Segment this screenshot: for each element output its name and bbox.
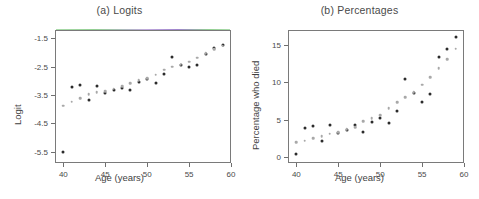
plot-area-percentages	[288, 30, 464, 163]
data-point-obs	[188, 66, 191, 69]
x-tick-label: 60	[460, 170, 469, 179]
data-point-fit	[412, 91, 415, 94]
data-point-fit	[354, 126, 357, 129]
data-point-obs	[421, 100, 424, 103]
x-tick-label: 50	[143, 170, 152, 179]
panel-title-logits: (a) Logits	[0, 4, 239, 16]
y-axis-title-percentage: Percentage who died	[250, 61, 261, 150]
y-tick-mark	[284, 157, 288, 158]
panel-percentages: (b) Percentages Percentage who died Age …	[240, 0, 479, 199]
x-tick-mark	[147, 163, 148, 167]
x-tick-label: 55	[418, 170, 427, 179]
panel-logits: (a) Logits Logit Age (years) -1.5-2.5-3.…	[0, 0, 239, 199]
data-point-obs	[379, 117, 382, 120]
data-point-fit	[320, 135, 323, 138]
data-point-fit	[312, 137, 315, 140]
data-point-obs	[370, 120, 373, 123]
data-point-fit	[121, 85, 124, 88]
data-point-fit	[329, 133, 332, 136]
data-point-fit	[112, 88, 115, 91]
data-point-obs	[446, 47, 449, 50]
data-point-fit	[96, 91, 99, 94]
data-point-fit	[396, 101, 399, 104]
data-point-obs	[70, 86, 73, 89]
data-point-obs	[454, 36, 457, 39]
data-point-fit	[104, 90, 107, 93]
data-point-fit	[446, 58, 449, 61]
y-tick-mark	[51, 67, 55, 68]
data-point-obs	[95, 85, 98, 88]
data-point-fit	[205, 52, 208, 55]
data-point-fit	[62, 105, 65, 108]
y-tick-label: -5.5	[15, 147, 48, 156]
y-tick-label: -2.5	[15, 62, 48, 71]
x-tick-mark	[105, 163, 106, 167]
y-tick-mark	[51, 123, 55, 124]
y-tick-mark	[284, 120, 288, 121]
x-axis-title-age: Age (years)	[240, 172, 479, 183]
x-tick-label: 50	[376, 170, 385, 179]
x-tick-mark	[231, 163, 232, 167]
data-point-fit	[70, 101, 73, 104]
data-point-obs	[295, 153, 298, 156]
y-tick-mark	[284, 45, 288, 46]
x-tick-mark	[380, 163, 381, 167]
y-tick-label: 0	[248, 153, 281, 162]
data-point-fit	[362, 120, 365, 123]
data-point-fit	[221, 45, 224, 48]
data-point-obs	[429, 92, 432, 95]
y-tick-label: -3.5	[15, 91, 48, 100]
data-point-fit	[129, 82, 132, 85]
y-tick-label: -4.5	[15, 119, 48, 128]
data-point-obs	[320, 139, 323, 142]
x-tick-mark	[63, 163, 64, 167]
data-point-obs	[437, 55, 440, 58]
data-point-fit	[138, 79, 141, 82]
data-point-obs	[404, 78, 407, 81]
y-tick-mark	[51, 152, 55, 153]
data-point-obs	[79, 83, 82, 86]
x-tick-label: 60	[227, 170, 236, 179]
data-point-fit	[387, 107, 390, 110]
data-point-obs	[328, 123, 331, 126]
data-point-fit	[404, 96, 407, 99]
x-tick-mark	[338, 163, 339, 167]
data-point-fit	[295, 141, 298, 144]
x-tick-label: 45	[334, 170, 343, 179]
data-point-fit	[196, 56, 199, 59]
data-point-obs	[171, 55, 174, 58]
data-point-fit	[171, 65, 174, 68]
data-point-fit	[163, 68, 166, 71]
x-tick-mark	[189, 163, 190, 167]
data-point-fit	[146, 77, 149, 80]
data-point-obs	[62, 151, 65, 154]
y-tick-mark	[51, 95, 55, 96]
data-point-obs	[395, 110, 398, 113]
y-tick-mark	[51, 38, 55, 39]
data-point-fit	[188, 60, 191, 63]
x-axis-title-age: Age (years)	[0, 172, 239, 183]
x-tick-label: 45	[101, 170, 110, 179]
data-point-fit	[345, 128, 348, 131]
data-point-fit	[179, 63, 182, 66]
data-point-fit	[303, 139, 306, 142]
data-point-obs	[162, 72, 165, 75]
data-point-fit	[454, 47, 457, 50]
data-point-fit	[379, 114, 382, 117]
x-tick-label: 55	[185, 170, 194, 179]
figure-logistic-fit-panels: (a) Logits Logit Age (years) -1.5-2.5-3.…	[0, 0, 479, 199]
data-point-fit	[154, 73, 157, 76]
data-point-obs	[154, 81, 157, 84]
x-tick-mark	[296, 163, 297, 167]
y-tick-mark	[284, 82, 288, 83]
y-tick-label: -1.5	[15, 34, 48, 43]
data-point-fit	[87, 93, 90, 96]
data-point-fit	[337, 131, 340, 134]
data-point-fit	[79, 97, 82, 100]
x-tick-mark	[422, 163, 423, 167]
data-point-fit	[371, 117, 374, 120]
data-point-fit	[429, 76, 432, 79]
data-point-obs	[362, 130, 365, 133]
x-tick-label: 40	[59, 170, 68, 179]
data-point-obs	[87, 98, 90, 101]
